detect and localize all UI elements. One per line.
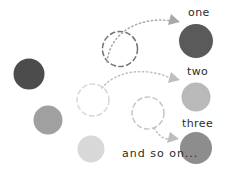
dashed-circle-light [132, 97, 164, 129]
target-circle-one [179, 24, 213, 58]
arrow-to-two [102, 72, 180, 88]
label-three: three [182, 118, 213, 129]
source-circle-light [78, 136, 105, 163]
arrow-to-one [107, 14, 180, 62]
label-one: one [188, 7, 210, 18]
target-circle-two [182, 83, 211, 112]
arrow-to-three [154, 128, 179, 143]
source-circle-dark [14, 59, 45, 90]
dashed-circle-medium [77, 84, 109, 116]
source-circle-medium [34, 106, 63, 135]
diagram-canvas: one two three and so on... [0, 0, 225, 173]
label-two: two [187, 66, 208, 77]
label-and-so-on: and so on... [122, 148, 198, 159]
